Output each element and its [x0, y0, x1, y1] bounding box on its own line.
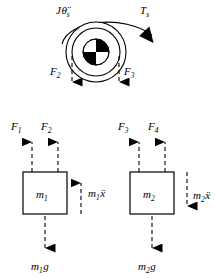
weight-m2g-label: m2g: [138, 260, 156, 275]
pulley-group: Jθ̈s Ts F2 F3: [49, 4, 159, 82]
inertia-force-m2: m2ẍ: [187, 172, 210, 206]
force-F3-label: F3: [117, 120, 129, 135]
force-F2-pulley-label: F2: [49, 65, 61, 80]
force-F3-pulley-label: F3: [123, 65, 135, 80]
force-F1-label: F1: [10, 120, 21, 135]
force-F1: F1: [10, 120, 32, 172]
force-F2: F2: [40, 120, 58, 172]
inertia-force-m2-label: m2ẍ: [193, 189, 210, 204]
weight-m1g: m1g: [31, 216, 49, 275]
pulley-inertia-label: Jθ̈s: [56, 4, 72, 19]
inertia-force-m1: m1ẍ: [81, 183, 105, 214]
pulley-torque-label: Ts: [140, 4, 149, 19]
force-F3: F3: [117, 120, 139, 172]
diagram-canvas: Jθ̈s Ts F2 F3 F1 F2 m1 m1: [0, 0, 215, 278]
weight-m2g: m2g: [138, 216, 156, 275]
inertia-force-m1-label: m1ẍ: [88, 187, 105, 202]
mass-block-m1-group: F1 F2 m1 m1ẍ m1g: [10, 120, 105, 275]
free-body-diagram: Jθ̈s Ts F2 F3 F1 F2 m1 m1: [0, 0, 215, 278]
weight-m1g-label: m1g: [31, 260, 49, 275]
force-F2-label: F2: [40, 120, 52, 135]
force-F4-label: F4: [147, 120, 159, 135]
pulley-hub: [83, 39, 109, 65]
force-F4: F4: [147, 120, 165, 172]
mass-block-m2-group: F3 F4 m2 m2ẍ m2g: [117, 120, 210, 275]
